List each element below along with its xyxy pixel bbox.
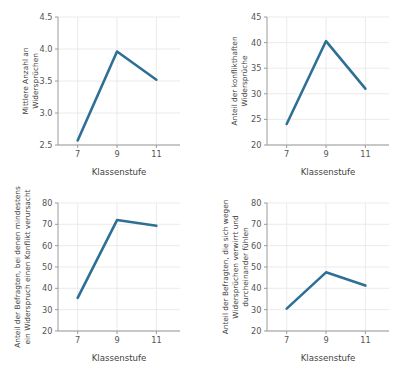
chart-panel-top-left: 2.53.03.54.04.57911KlassenstufeMittlere … — [0, 0, 209, 186]
y-tick-label-4: 40 — [251, 38, 261, 48]
x-tick-label-1: 9 — [323, 335, 328, 345]
y-axis-label-line-0: Anteil der Befragten, die sich wegen — [221, 199, 230, 334]
y-tick-label-2: 3.5 — [39, 76, 52, 86]
y-tick-label-0: 2.5 — [39, 140, 52, 150]
y-tick-label-3: 50 — [251, 262, 261, 272]
y-axis-label-line-1: Widersprüche — [240, 55, 249, 106]
y-axis-label: Mittlere Anzahl anWidersprüchen — [21, 47, 40, 114]
y-tick-label-2: 40 — [251, 283, 261, 293]
y-tick-label-5: 70 — [251, 219, 261, 229]
y-axis-label: Anteil der Befragten, die sich wegenWide… — [221, 199, 250, 334]
y-tick-label-2: 30 — [251, 89, 261, 99]
y-tick-label-3: 50 — [42, 262, 52, 272]
x-axis-label: Klassenstufe — [92, 353, 147, 363]
chart-panel-top-right: 2025303540457911KlassenstufeAnteil der k… — [209, 0, 418, 186]
x-tick-label-0: 7 — [284, 335, 289, 345]
y-tick-label-0: 20 — [251, 326, 261, 336]
y-tick-label-6: 80 — [251, 198, 261, 208]
figure-canvas: 2.53.03.54.04.57911KlassenstufeMittlere … — [0, 0, 418, 372]
x-tick-label-2: 11 — [151, 149, 161, 159]
y-tick-label-1: 30 — [251, 305, 261, 315]
y-tick-label-4: 60 — [42, 241, 52, 251]
y-tick-label-0: 20 — [251, 140, 261, 150]
x-tick-label-2: 11 — [151, 335, 161, 345]
x-tick-label-0: 7 — [284, 149, 289, 159]
x-axis-label: Klassenstufe — [92, 167, 147, 177]
y-axis-label-line-2: durcheinander fühlen — [241, 227, 250, 307]
y-tick-label-6: 80 — [42, 198, 52, 208]
y-tick-label-5: 70 — [42, 219, 52, 229]
plot-bottom-right: 203040506070807911KlassenstufeAnteil der… — [209, 186, 418, 372]
plot-top-left: 2.53.03.54.04.57911KlassenstufeMittlere … — [0, 0, 209, 186]
y-tick-label-3: 35 — [251, 63, 261, 73]
y-axis-label-line-1: Widersprüchen — [31, 53, 40, 109]
y-axis-label-line-0: Anteil der Befragten, bei denen mindeste… — [13, 186, 22, 348]
x-tick-label-0: 7 — [75, 149, 80, 159]
x-tick-label-1: 9 — [323, 149, 328, 159]
x-tick-label-2: 11 — [360, 149, 370, 159]
x-tick-label-2: 11 — [360, 335, 370, 345]
x-axis-label: Klassenstufe — [301, 353, 356, 363]
plot-bottom-left: 203040506070807911KlassenstufeAnteil der… — [0, 186, 209, 372]
y-axis-label-line-1: ein Widerspruch einen Konflikt verursach… — [23, 189, 32, 344]
y-axis-label-line-0: Mittlere Anzahl an — [21, 47, 30, 114]
y-axis-label: Anteil der konflikthaftenWidersprüche — [230, 36, 249, 126]
y-tick-label-0: 20 — [42, 326, 52, 336]
y-tick-label-4: 4.5 — [39, 12, 52, 22]
x-tick-label-1: 9 — [114, 335, 119, 345]
y-tick-label-4: 60 — [251, 241, 261, 251]
y-tick-label-1: 30 — [42, 305, 52, 315]
chart-panel-bottom-left: 203040506070807911KlassenstufeAnteil der… — [0, 186, 209, 372]
chart-panel-bottom-right: 203040506070807911KlassenstufeAnteil der… — [209, 186, 418, 372]
x-tick-label-0: 7 — [75, 335, 80, 345]
x-tick-label-1: 9 — [114, 149, 119, 159]
y-axis-label-line-1: Widersprüchen verwirrt und — [231, 215, 240, 319]
y-tick-label-1: 3.0 — [39, 108, 52, 118]
y-tick-label-3: 4.0 — [39, 44, 52, 54]
y-tick-label-2: 40 — [42, 283, 52, 293]
y-axis-label: Anteil der Befragten, bei denen mindeste… — [13, 186, 32, 348]
y-tick-label-1: 25 — [251, 114, 261, 124]
x-axis-label: Klassenstufe — [301, 167, 356, 177]
y-tick-label-5: 45 — [251, 12, 261, 22]
y-axis-label-line-0: Anteil der konflikthaften — [230, 36, 239, 126]
plot-top-right: 2025303540457911KlassenstufeAnteil der k… — [209, 0, 418, 186]
